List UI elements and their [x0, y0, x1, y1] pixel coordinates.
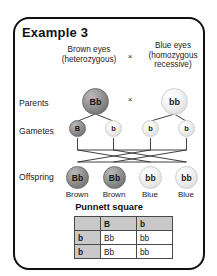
- punnett-col-header-1: B: [101, 217, 137, 231]
- offspring-circle-3: bb: [139, 166, 162, 189]
- offspring-phenotype-1: Brown: [56, 190, 98, 199]
- parent-right-phenotype-line1: Blue eyes: [140, 41, 206, 51]
- cross-symbol-top: ×: [124, 52, 136, 61]
- parent-right-phenotype-line2: (homozygous: [140, 51, 206, 61]
- punnett-square-table: B b b Bb bb b Bb bb: [74, 216, 173, 259]
- row-label-gametes: Gametes: [19, 126, 54, 136]
- parent-right-allele-circle: bb: [161, 88, 188, 115]
- punnett-cell-1-1: Bb: [101, 231, 137, 245]
- parent-left-allele-circle: Bb: [82, 88, 109, 115]
- parent-right-phenotype-label: Blue eyes (homozygous recessive): [140, 41, 206, 70]
- punnett-cell-2-1: Bb: [101, 245, 137, 259]
- punnett-cell-1-2: bb: [137, 231, 173, 245]
- punnett-row-header-2: b: [75, 245, 101, 259]
- gamete-circle-3: b: [142, 120, 159, 137]
- cross-symbol-parents: ×: [124, 95, 136, 104]
- table-row: b Bb bb: [75, 231, 173, 245]
- gamete-circle-2: b: [105, 120, 122, 137]
- punnett-cell-2-2: bb: [137, 245, 173, 259]
- gamete-circle-4: b: [178, 120, 195, 137]
- parent-left-phenotype-line1: Brown eyes: [56, 45, 122, 55]
- gamete-circle-1: B: [69, 120, 86, 137]
- punnett-corner-cell: [75, 217, 101, 231]
- parent-left-phenotype-label: Brown eyes (heterozygous): [56, 45, 122, 64]
- punnett-col-header-2: b: [137, 217, 173, 231]
- table-row: b Bb bb: [75, 245, 173, 259]
- offspring-phenotype-4: Blue: [165, 190, 207, 199]
- punnett-square-title: Punnett square: [13, 202, 205, 212]
- row-label-parents: Parents: [19, 98, 49, 108]
- parent-right-phenotype-line3: recessive): [140, 60, 206, 70]
- parent-left-phenotype-line2: (heterozygous): [56, 55, 122, 65]
- punnett-row-header-1: b: [75, 231, 101, 245]
- offspring-circle-2: Bb: [103, 166, 126, 189]
- row-label-offspring: Offspring: [19, 172, 54, 182]
- offspring-circle-4: bb: [175, 166, 198, 189]
- page-title: Example 3: [22, 25, 88, 40]
- table-row-header: B b: [75, 217, 173, 231]
- offspring-circle-1: Bb: [66, 166, 89, 189]
